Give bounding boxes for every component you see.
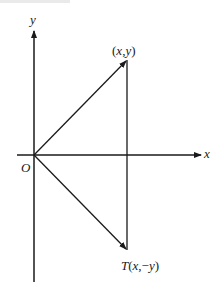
original-point-label: (x,y) [112, 43, 136, 58]
x-axis-label: x [203, 146, 210, 161]
vector-to-original-point [34, 61, 126, 155]
cropped-text-fragment [0, 0, 70, 3]
origin-label: O [21, 160, 31, 175]
y-axis-label: y [28, 12, 36, 27]
vector-to-image-point [34, 155, 126, 249]
reflection-diagram: y x O (x,y) T(x,−y) [0, 0, 218, 292]
image-point-label: T(x,−y) [121, 258, 159, 273]
